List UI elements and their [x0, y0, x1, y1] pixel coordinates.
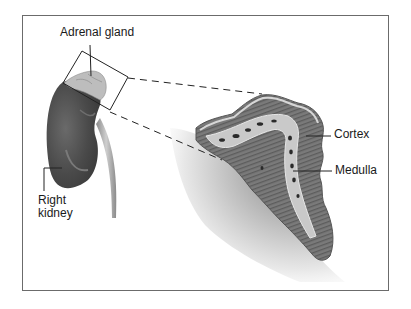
ureter: [96, 118, 116, 218]
cortex-label: Cortex: [334, 128, 369, 141]
medulla-label: Medulla: [335, 164, 377, 177]
zoom-line-top: [128, 78, 262, 94]
right-kidney-label-line2: kidney: [38, 207, 73, 220]
adrenal-gland-label: Adrenal gland: [60, 26, 134, 39]
right-kidney-label: Right kidney: [38, 194, 73, 220]
adrenal-illustration: [0, 0, 411, 309]
